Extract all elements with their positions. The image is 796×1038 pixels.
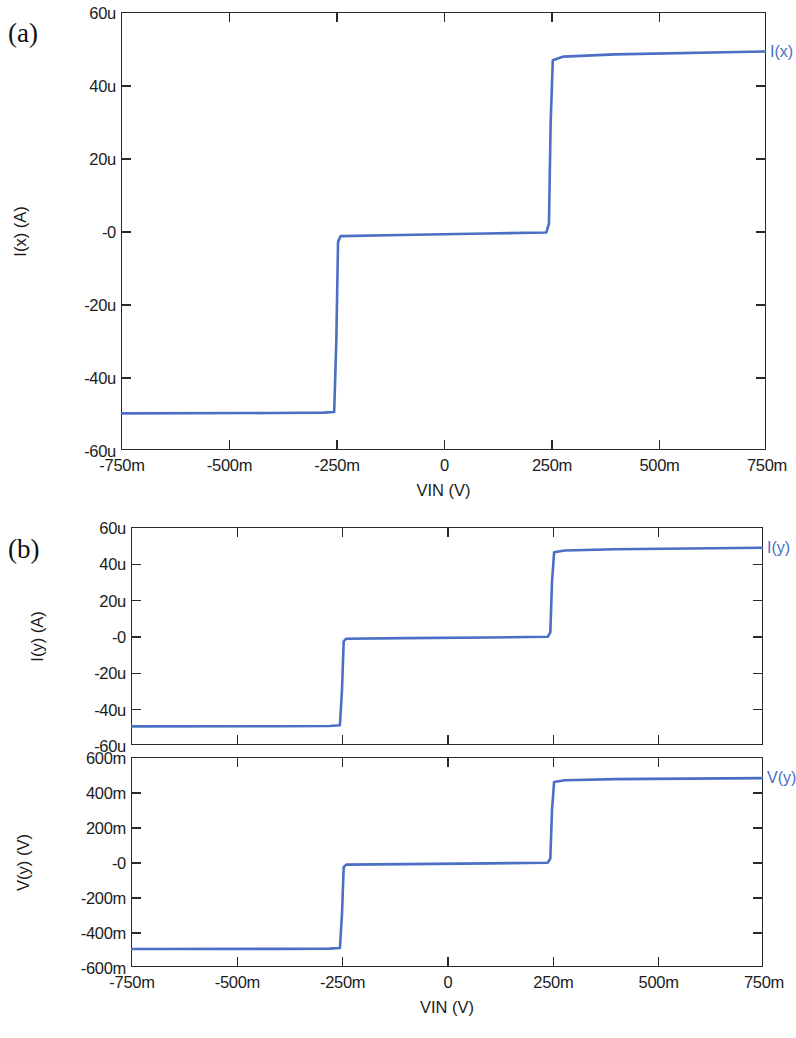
x-tick-label-b2-6: 750m — [744, 973, 784, 992]
y-tick-right-a-1 — [756, 85, 765, 87]
y-tick-b1-5 — [132, 709, 141, 711]
y-axis-title-a: I(x) (A) — [10, 206, 29, 256]
y-tick-b2-2 — [132, 827, 141, 829]
y-tick-label-b1-3: -0 — [112, 628, 126, 647]
curve-vy — [132, 758, 762, 966]
x-tick-b2-1 — [237, 957, 239, 966]
x-tick-top-b2-3 — [447, 758, 449, 767]
x-tick-label-a-4: 250m — [532, 456, 572, 475]
y-tick-right-b2-1 — [753, 792, 762, 794]
plot-area-a — [122, 13, 765, 449]
y-tick-right-b2-3 — [753, 862, 762, 864]
x-tick-b2-3 — [447, 957, 449, 966]
y-tick-label-a-4: -20u — [84, 296, 116, 315]
y-tick-label-a-0: 60u — [89, 4, 116, 23]
x-tick-top-b2-5 — [658, 758, 660, 767]
y-tick-right-b2-5 — [753, 932, 762, 934]
x-tick-label-a-0: -750m — [99, 456, 144, 475]
y-tick-b1-3 — [132, 636, 141, 638]
y-tick-a-1 — [122, 85, 131, 87]
x-tick-top-a-5 — [659, 13, 661, 22]
x-tick-a-2 — [336, 440, 338, 449]
x-tick-top-b2-2 — [342, 758, 344, 767]
y-tick-right-a-2 — [756, 158, 765, 160]
trace-label-vy: V(y) — [767, 769, 796, 787]
y-tick-right-b1-1 — [753, 564, 762, 566]
x-tick-label-b2-5: 500m — [639, 973, 679, 992]
chart-panel-b-iy: I(y) (A) I(y) 60u40u20u-0-20u-40u-60u — [131, 527, 763, 745]
x-tick-label-b2-2: -250m — [320, 973, 365, 992]
y-tick-right-b1-3 — [753, 636, 762, 638]
x-tick-label-a-1: -500m — [207, 456, 252, 475]
x-tick-b1-4 — [553, 735, 555, 744]
x-tick-top-b2-4 — [553, 758, 555, 767]
y-tick-label-b1-4: -20u — [94, 664, 126, 683]
y-tick-label-b1-0: 60u — [99, 519, 126, 538]
y-tick-right-b2-4 — [753, 897, 762, 899]
x-tick-b2-5 — [658, 957, 660, 966]
y-tick-b2-5 — [132, 932, 141, 934]
x-tick-top-a-1 — [229, 13, 231, 22]
x-tick-label-a-3: 0 — [440, 456, 449, 475]
x-axis-title-a: VIN (V) — [416, 481, 470, 500]
y-tick-label-a-3: -0 — [102, 223, 116, 242]
y-tick-b2-3 — [132, 862, 141, 864]
y-tick-label-a-2: 20u — [89, 150, 116, 169]
x-tick-label-b2-4: 250m — [533, 973, 573, 992]
y-tick-b2-4 — [132, 897, 141, 899]
x-axis-title-b: VIN (V) — [420, 998, 474, 1017]
x-tick-top-b1-2 — [342, 528, 344, 537]
y-tick-label-a-5: -40u — [84, 369, 116, 388]
plot-area-b2 — [132, 758, 762, 966]
x-tick-top-b1-1 — [237, 528, 239, 537]
x-tick-b1-2 — [342, 735, 344, 744]
y-tick-a-4 — [122, 304, 131, 306]
x-tick-top-b1-5 — [658, 528, 660, 537]
x-tick-label-a-5: 500m — [639, 456, 679, 475]
x-tick-b1-1 — [237, 735, 239, 744]
x-tick-top-a-3 — [444, 13, 446, 22]
y-tick-label-b1-1: 40u — [99, 555, 126, 574]
series-V(y) — [132, 778, 762, 949]
y-tick-label-a-1: 40u — [89, 77, 116, 96]
x-tick-top-a-4 — [551, 13, 553, 22]
x-tick-top-b1-3 — [447, 528, 449, 537]
x-tick-a-3 — [444, 440, 446, 449]
y-tick-label-b2-2: 200m — [86, 819, 126, 838]
y-tick-label-b2-4: -200m — [81, 889, 126, 908]
plot-area-b1 — [132, 528, 762, 744]
y-axis-title-b1: I(y) (A) — [27, 611, 46, 661]
series-I(x) — [122, 52, 765, 414]
y-tick-right-a-5 — [756, 377, 765, 379]
x-tick-label-b2-0: -750m — [109, 973, 154, 992]
y-tick-a-5 — [122, 377, 131, 379]
y-tick-right-b1-2 — [753, 600, 762, 602]
x-tick-b1-3 — [447, 735, 449, 744]
chart-panel-a-ix: I(x) (A) VIN (V) I(x) 60u40u20u-0-20u-40… — [121, 12, 766, 450]
y-tick-b1-4 — [132, 673, 141, 675]
y-tick-right-a-3 — [756, 231, 765, 233]
series-I(y) — [132, 548, 762, 727]
x-tick-top-b1-4 — [553, 528, 555, 537]
panel-b-label: (b) — [8, 534, 39, 565]
x-tick-b1-5 — [658, 735, 660, 744]
x-tick-a-5 — [659, 440, 661, 449]
y-tick-label-b2-5: -400m — [81, 924, 126, 943]
y-axis-title-b2: V(y) (V) — [14, 834, 33, 891]
y-tick-a-3 — [122, 231, 131, 233]
x-tick-label-a-2: -250m — [314, 456, 359, 475]
x-tick-top-a-2 — [336, 13, 338, 22]
chart-panel-b-vy: V(y) (V) VIN (V) V(y) 600m400m200m-0-200… — [131, 757, 763, 967]
panel-a-label: (a) — [8, 18, 38, 49]
curve-iy — [132, 528, 762, 744]
y-tick-right-b1-4 — [753, 673, 762, 675]
y-tick-b1-1 — [132, 564, 141, 566]
y-tick-label-b2-3: -0 — [112, 854, 126, 873]
y-tick-b2-1 — [132, 792, 141, 794]
y-tick-b1-2 — [132, 600, 141, 602]
y-tick-label-b1-5: -40u — [94, 700, 126, 719]
y-tick-label-b2-0: 600m — [86, 749, 126, 768]
y-tick-right-a-4 — [756, 304, 765, 306]
trace-label-ix: I(x) — [770, 43, 793, 61]
y-tick-right-b1-5 — [753, 709, 762, 711]
